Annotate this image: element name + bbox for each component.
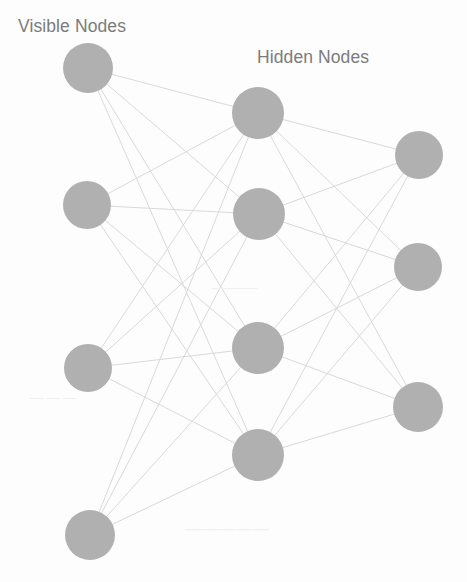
node-h4 (232, 429, 284, 481)
network-canvas (0, 0, 467, 582)
edge (88, 113, 258, 368)
node-h3 (232, 322, 284, 374)
node-v4 (65, 510, 115, 560)
node-o2 (394, 243, 442, 291)
edge (258, 113, 418, 407)
edge (90, 455, 258, 535)
edge (258, 155, 419, 348)
edge (88, 68, 258, 113)
visible-nodes-label: Visible Nodes (18, 16, 126, 37)
node-v3 (64, 344, 112, 392)
edge (87, 205, 258, 455)
hidden-nodes-label: Hidden Nodes (257, 47, 369, 68)
edge (258, 267, 418, 455)
node-v2 (63, 181, 111, 229)
edge (258, 267, 418, 348)
node-h2 (233, 188, 285, 240)
edge (90, 113, 258, 535)
node-o1 (395, 131, 443, 179)
edge (258, 113, 418, 267)
node-h1 (232, 87, 284, 139)
node-v1 (63, 43, 113, 93)
edge (88, 68, 258, 455)
neural-network-diagram: Visible Nodes Hidden Nodes ——— — — — ———… (0, 0, 467, 582)
edge (88, 68, 259, 214)
node-o3 (393, 382, 443, 432)
